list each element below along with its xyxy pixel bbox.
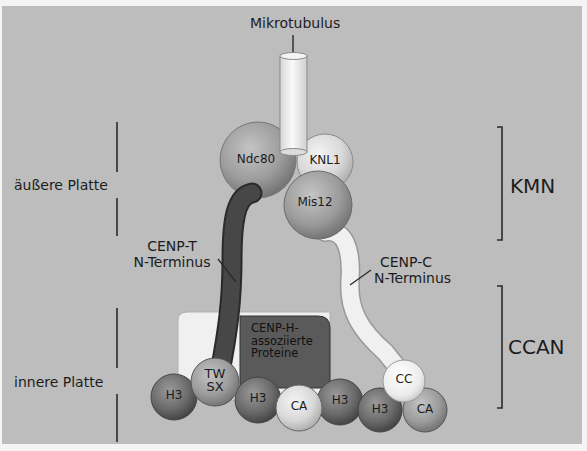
microtubule-label: Mikrotubulus bbox=[250, 15, 340, 31]
knl1-label: KNL1 bbox=[305, 154, 345, 168]
kmn-label: KMN bbox=[510, 175, 555, 198]
nucleosome-h3-2-label: H3 bbox=[242, 392, 274, 406]
ccan-bracket bbox=[497, 286, 502, 408]
cenp-h-label: CENP-H- assoziierte Proteine bbox=[251, 322, 313, 360]
inner-plate-label: innere Platte bbox=[14, 374, 103, 390]
cenp-h-line1: CENP-H- bbox=[251, 322, 313, 335]
ccan-label: CCAN bbox=[508, 336, 565, 359]
ndc80-label: Ndc80 bbox=[228, 153, 284, 167]
cc-label: CC bbox=[388, 373, 420, 387]
cenp-c-line1: CENP-C bbox=[374, 254, 451, 270]
cenp-h-line3: Proteine bbox=[251, 347, 313, 360]
cenp-c-line2: N-Terminus bbox=[374, 270, 451, 286]
twsx-label: TW SX bbox=[199, 367, 231, 393]
mis12-label: Mis12 bbox=[290, 196, 340, 210]
cenp-c-label: CENP-C N-Terminus bbox=[374, 254, 451, 286]
nucleosome-h3-1-label: H3 bbox=[158, 389, 190, 403]
nucleosome-h3-3-label: H3 bbox=[324, 394, 356, 408]
cenp-t-line1: CENP-T bbox=[112, 238, 232, 254]
nucleosome-ca-2-label: CA bbox=[409, 403, 441, 417]
cenp-t-label: CENP-T N-Terminus bbox=[112, 238, 232, 270]
cenp-t-line2: N-Terminus bbox=[112, 254, 232, 270]
kmn-bracket bbox=[497, 127, 502, 240]
nucleosome-ca-1-label: CA bbox=[283, 400, 315, 414]
kinetochore-diagram: Mikrotubulus äußere Platte innere Platte… bbox=[0, 0, 587, 451]
outer-plate-label: äußere Platte bbox=[14, 177, 108, 193]
microtubule-cylinder bbox=[280, 53, 307, 156]
twsx-line2: SX bbox=[199, 380, 231, 393]
nucleosome-h3-4-label: H3 bbox=[364, 403, 396, 417]
